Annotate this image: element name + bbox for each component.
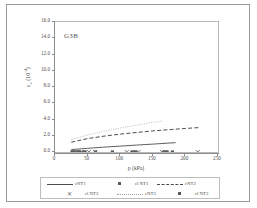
y-axis-tick-mark — [52, 54, 55, 55]
plot-area: G3B — [54, 21, 219, 153]
series-marker-εl NT2 — [87, 150, 91, 152]
x-axis-tick-label: 50 — [84, 156, 89, 161]
x-axis-tick-label: 250 — [213, 156, 221, 161]
cross-marker-icon: ✕ — [57, 191, 83, 197]
series-line-εNT2 — [71, 128, 198, 143]
x-axis-tick-label: 0 — [53, 156, 56, 161]
legend-item-label: εNT1 — [75, 181, 86, 186]
x-axis-tick-mark — [119, 153, 120, 156]
y-axis-tick-label: 10.0 — [33, 67, 50, 72]
legend-item-label: εNT3 — [145, 191, 156, 196]
legend-item-εl NT3[interactable]: εl NT3 — [167, 188, 208, 199]
y-axis-tick-label: 12.0 — [33, 51, 50, 56]
series-marker-εl NT3 — [71, 150, 74, 152]
x-axis-tick-label: 150 — [148, 156, 156, 161]
x-axis-title: p (kPa) — [128, 165, 144, 171]
dotted-line-icon — [117, 191, 143, 197]
y-axis-tick-mark — [52, 86, 55, 87]
legend: εNT1εl NT1εNT2 ✕εl NT2εNT3εl NT3 — [40, 177, 220, 199]
y-axis-tick-mark — [52, 119, 55, 120]
y-axis-line — [54, 21, 55, 153]
series-line-εNT1 — [71, 143, 175, 150]
square-marker-icon — [167, 191, 193, 197]
series-marker-εl NT3 — [83, 150, 86, 152]
legend-item-label: εl NT3 — [195, 191, 208, 196]
x-axis-tick-mark — [184, 153, 185, 156]
x-axis-tick-mark — [54, 153, 55, 156]
series-marker-εl NT1 — [111, 150, 114, 152]
y-axis-tick-label: 6.0 — [33, 100, 50, 105]
y-axis-title: εv (10-4) — [23, 67, 33, 87]
y-axis-title-text: εv (10-4) — [25, 67, 31, 87]
x-axis-tick-label: 200 — [181, 156, 189, 161]
data-curves — [55, 22, 218, 152]
series-marker-εl NT1 — [171, 150, 174, 152]
y-axis-tick-label: 0.0 — [33, 148, 50, 153]
x-axis-line — [54, 153, 219, 154]
series-marker-εl NT2 — [196, 150, 200, 152]
x-axis-tick-label: 100 — [115, 156, 123, 161]
y-axis-tick-label: 8.0 — [33, 83, 50, 88]
square-marker-icon — [107, 181, 133, 187]
y-axis-tick-label: 2.0 — [33, 132, 50, 137]
legend-item-εl NT2[interactable]: ✕εl NT2 — [57, 188, 98, 199]
solid-line-icon — [47, 181, 73, 187]
legend-row-2: ✕εl NT2εNT3εl NT3 — [41, 188, 219, 199]
y-axis-tick-mark — [52, 102, 55, 103]
series-marker-εl NT2 — [125, 150, 129, 152]
y-axis-tick-label: 16.0 — [33, 18, 50, 23]
figure-frame: G3B 16.014.012.010.08.06.04.02.00.0 εv (… — [6, 4, 250, 202]
chart-figure: G3B 16.014.012.010.08.06.04.02.00.0 εv (… — [7, 5, 249, 201]
y-axis-tick-mark — [52, 70, 55, 71]
y-axis-tick-label: 14.0 — [33, 35, 50, 40]
x-axis-tick-mark — [217, 153, 218, 156]
legend-item-label: εl NT2 — [85, 191, 98, 196]
series-line-εNT3 — [71, 121, 162, 140]
y-axis-tick-label: 4.0 — [33, 116, 50, 121]
series-marker-εl NT3 — [164, 150, 167, 152]
series-marker-εl NT3 — [132, 150, 135, 152]
series-marker-εl NT3 — [77, 150, 80, 152]
x-axis-tick-mark — [87, 153, 88, 156]
y-axis-tick-mark — [52, 37, 55, 38]
y-axis-tick-mark — [52, 151, 55, 152]
legend-item-label: εl NT1 — [135, 181, 148, 186]
y-axis-tick-mark — [52, 135, 55, 136]
y-axis-tick-mark — [52, 21, 55, 22]
x-axis-tick-mark — [152, 153, 153, 156]
dashed-line-icon — [157, 181, 183, 187]
legend-item-label: εNT2 — [185, 181, 196, 186]
legend-item-εNT3[interactable]: εNT3 — [117, 188, 156, 199]
